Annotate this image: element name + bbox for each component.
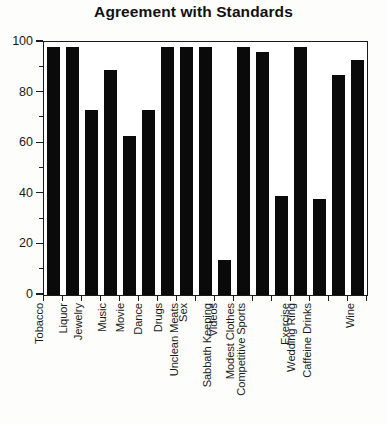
- bar[interactable]: [47, 47, 61, 295]
- bar-slot: [253, 42, 272, 295]
- bar[interactable]: [275, 196, 289, 295]
- bar-slot: [82, 42, 101, 295]
- x-axis-tick: [100, 295, 101, 301]
- bar[interactable]: [218, 260, 232, 295]
- y-axis-tick-label: 20: [19, 236, 33, 250]
- x-axis-tick: [43, 295, 44, 301]
- x-axis-tick-label: Wedding Ring: [284, 303, 296, 372]
- x-axis-label-slot: Wine: [347, 303, 366, 421]
- x-axis-tick-label: Caffeine Drinks: [300, 303, 312, 378]
- bar[interactable]: [142, 110, 156, 295]
- x-axis-tick: [328, 295, 329, 301]
- bar-slot: [139, 42, 158, 295]
- bar[interactable]: [199, 47, 213, 295]
- x-axis-tick: [81, 295, 82, 301]
- bar[interactable]: [104, 70, 118, 295]
- bar[interactable]: [313, 199, 327, 295]
- bar-slot: [63, 42, 82, 295]
- x-axis-tick: [271, 295, 272, 301]
- bar[interactable]: [256, 52, 270, 295]
- x-axis-tick: [233, 295, 234, 301]
- y-axis-tick-label: 60: [19, 135, 33, 149]
- y-axis-tick-labels: 020406080100: [0, 41, 33, 294]
- x-axis-tick: [138, 295, 139, 301]
- bar[interactable]: [180, 47, 194, 295]
- x-axis-tick-label: Drugs: [152, 303, 164, 332]
- x-axis-tick: [309, 295, 310, 301]
- bar-slot: [234, 42, 253, 295]
- y-axis-tick-label: 80: [19, 85, 33, 99]
- x-axis-tick: [157, 295, 158, 301]
- y-axis-minor-ticks: [35, 41, 43, 294]
- bar-slot: [329, 42, 348, 295]
- bar-slot: [177, 42, 196, 295]
- y-axis-tick-label: 0: [26, 287, 33, 301]
- x-axis-tick: [119, 295, 120, 301]
- bar[interactable]: [237, 47, 251, 295]
- y-axis-tick-label: 100: [12, 34, 33, 48]
- x-axis-tick-label: Sabbath Keeping: [200, 303, 212, 387]
- bar-slot: [101, 42, 120, 295]
- bar-slot: [215, 42, 234, 295]
- bar[interactable]: [161, 47, 175, 295]
- x-axis-tick-labels: TobaccoLiquorJewelryMusicMovieDanceDrugs…: [43, 303, 366, 421]
- bar-slot: [196, 42, 215, 295]
- y-axis-tick-label: 40: [19, 186, 33, 200]
- bar-slot: [291, 42, 310, 295]
- x-axis-tick: [347, 295, 348, 301]
- bar-series: [44, 42, 367, 295]
- bar-slot: [44, 42, 63, 295]
- bar[interactable]: [123, 136, 137, 295]
- plot-area: [43, 41, 368, 296]
- bar[interactable]: [66, 47, 80, 295]
- bar-slot: [272, 42, 291, 295]
- bar-slot: [120, 42, 139, 295]
- x-axis-tick-label: Movie: [114, 303, 126, 332]
- bar-slot: [158, 42, 177, 295]
- x-axis-tick-label: Modest Clothes: [223, 303, 235, 379]
- x-axis-tick-label: Tobacco: [32, 303, 44, 344]
- bar[interactable]: [332, 75, 346, 295]
- x-axis-tick-label: Dance: [132, 303, 144, 335]
- bar[interactable]: [85, 110, 99, 295]
- x-axis-tick: [176, 295, 177, 301]
- x-axis-tick-label: Music: [95, 303, 107, 332]
- x-axis-tick-label: Jewelry: [72, 303, 84, 340]
- x-axis-label-slot: Modest Clothes: [252, 303, 271, 421]
- x-axis-tick-label: Competitive Sports: [234, 303, 246, 396]
- x-axis-tick-label: Unclean Meats: [168, 303, 180, 376]
- bar-slot: [348, 42, 367, 295]
- chart-title: Agreement with Standards: [0, 3, 387, 21]
- x-axis-tick: [214, 295, 215, 301]
- x-axis-tick: [290, 295, 291, 301]
- x-axis-tick: [366, 295, 367, 301]
- x-axis-tick-label: Liquor: [56, 303, 68, 334]
- x-axis-tick: [62, 295, 63, 301]
- bar[interactable]: [294, 47, 308, 295]
- chart-figure: Agreement with Standards 020406080100 To…: [0, 0, 387, 424]
- x-axis-tick: [195, 295, 196, 301]
- x-axis-ticks: [43, 295, 366, 302]
- bar-slot: [310, 42, 329, 295]
- x-axis-tick: [252, 295, 253, 301]
- bar[interactable]: [351, 60, 365, 295]
- x-axis-tick-label: Wine: [344, 303, 356, 328]
